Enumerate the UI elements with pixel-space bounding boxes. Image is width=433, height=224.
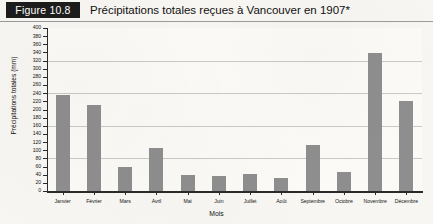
y-axis-tick-label: 160 [17,123,41,128]
y-axis-tick [43,44,47,45]
x-axis-tick [344,191,345,195]
y-axis-tick [43,36,47,37]
x-axis-tick [406,191,407,195]
y-axis-tick-label: 380 [17,34,41,39]
y-axis-tick [43,118,47,119]
x-axis-tick [219,191,220,195]
figure-header: Figure 10.8 Précipitations totales reçue… [0,0,433,22]
x-axis-tick [156,191,157,195]
bar [181,175,195,191]
y-axis-tick-label: 260 [17,82,41,87]
x-axis-tick [281,191,282,195]
y-axis-tick [43,61,47,62]
y-axis-tick-label: 240 [17,91,41,96]
y-axis-tick [43,85,47,86]
y-axis-tick [43,69,47,70]
y-axis-tick-label: 300 [17,66,41,71]
y-axis-tick-label: 80 [17,156,41,161]
y-axis-tick-label: 0 [17,188,41,193]
y-axis-tick [43,175,47,176]
plot-area [47,28,422,191]
y-axis-tick [43,93,47,94]
y-axis-tick [43,77,47,78]
gridline [47,93,422,94]
x-axis-tick [63,191,64,195]
y-axis-title: Précipitations totales (mm) [10,31,17,161]
gridline [47,158,422,159]
y-axis-tick [43,158,47,159]
bar [337,172,351,191]
y-axis-tick [43,126,47,127]
y-axis-tick-label: 40 [17,172,41,177]
x-axis-tick [313,191,314,195]
bar-chart: 0204060801001201401601802002202402602803… [0,22,433,224]
y-axis-tick [43,28,47,29]
bar [399,101,413,191]
y-axis-tick [43,167,47,168]
bar [87,105,101,191]
bar [243,174,257,191]
y-axis-tick-label: 200 [17,107,41,112]
figure-number-badge: Figure 10.8 [6,2,80,18]
bar [149,148,163,191]
y-axis-tick [43,191,47,192]
y-axis-tick-labels: 0204060801001201401601802002202402602803… [13,28,41,192]
gridline [47,126,422,127]
x-axis-title: Mois [0,210,433,217]
y-axis-tick-label: 180 [17,115,41,120]
x-axis-line [47,191,423,193]
y-axis-tick-label: 20 [17,180,41,185]
y-axis-tick-label: 100 [17,148,41,153]
y-axis-tick-label: 400 [17,25,41,30]
gridline [47,61,422,62]
figure-title: Précipitations totales reçues à Vancouve… [90,2,350,18]
y-axis-tick-label: 340 [17,50,41,55]
y-axis-tick [43,142,47,143]
figure-page: Figure 10.8 Précipitations totales reçue… [0,0,433,224]
y-axis-tick-label: 140 [17,131,41,136]
x-axis-tick [375,191,376,195]
x-axis-tick [94,191,95,195]
y-axis-tick [43,150,47,151]
y-axis-tick [43,134,47,135]
y-axis-tick-label: 220 [17,99,41,104]
x-axis-tick-label: Décembre [375,198,433,204]
bar [368,53,382,191]
y-axis-tick-label: 360 [17,42,41,47]
y-axis-tick [43,183,47,184]
bar [118,167,132,191]
y-axis-tick [43,110,47,111]
y-axis-tick [43,101,47,102]
y-axis-tick-label: 120 [17,140,41,145]
x-axis-tick [125,191,126,195]
bar [212,176,226,191]
x-axis-tick [188,191,189,195]
bar [274,178,288,191]
y-axis-tick-label: 60 [17,164,41,169]
y-axis-tick [43,52,47,53]
y-axis-tick-label: 320 [17,58,41,63]
y-axis-tick-label: 280 [17,74,41,79]
bar [306,145,320,191]
bar [56,95,70,191]
y-axis-line [47,28,48,192]
x-axis-tick [250,191,251,195]
